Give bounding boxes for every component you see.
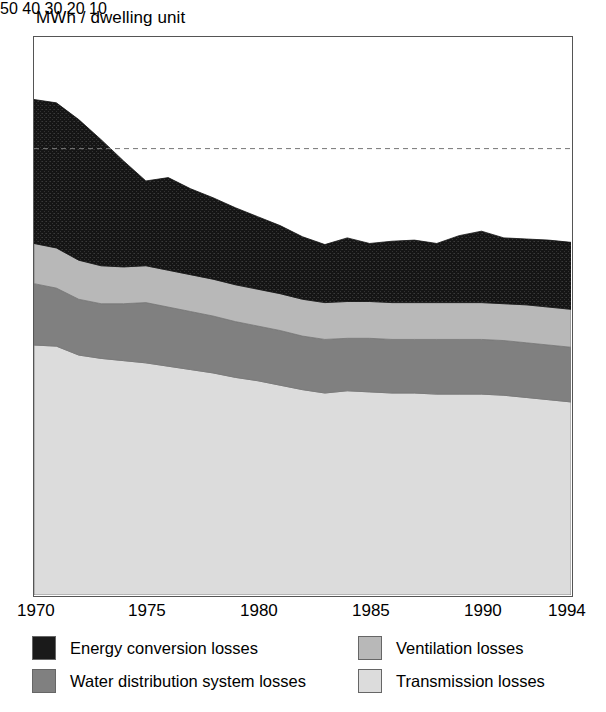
x-tick-1970: 1970 [17, 601, 55, 621]
x-tick-1990: 1990 [464, 601, 502, 621]
legend-swatch-energy-conversion-losses [32, 636, 56, 660]
legend-label-water-distribution-system-losses: Water distribution system losses [70, 672, 306, 691]
legend-label-energy-conversion-losses: Energy conversion losses [70, 639, 258, 658]
legend-label-ventilation-losses: Ventilation losses [396, 639, 524, 658]
y-tick-50: 50 [0, 0, 18, 17]
legend-label-transmission-losses: Transmission losses [396, 672, 545, 691]
x-tick-1985: 1985 [352, 601, 390, 621]
x-tick-1980: 1980 [240, 601, 278, 621]
legend-item-transmission-losses: Transmission losses [358, 669, 545, 693]
x-tick-1994: 1994 [548, 601, 586, 621]
y-tick-40: 40 [22, 0, 40, 17]
y-tick-10: 10 [89, 0, 107, 17]
x-tick-1975: 1975 [128, 601, 166, 621]
legend-item-energy-conversion-losses: Energy conversion losses [32, 636, 258, 660]
legend-item-water-distribution-system-losses: Water distribution system losses [32, 669, 306, 693]
chart-legend: Energy conversion losses Ventilation los… [0, 636, 606, 702]
legend-swatch-ventilation-losses [358, 636, 382, 660]
y-axis: 50 40 30 20 10 [0, 0, 606, 712]
legend-item-ventilation-losses: Ventilation losses [358, 636, 524, 660]
chart-container: MWh / dwelling unit 50 40 30 20 10 1970 … [0, 0, 606, 712]
y-tick-30: 30 [45, 0, 63, 17]
legend-swatch-water-distribution-system-losses [32, 669, 56, 693]
y-tick-20: 20 [67, 0, 85, 17]
legend-swatch-transmission-losses [358, 669, 382, 693]
